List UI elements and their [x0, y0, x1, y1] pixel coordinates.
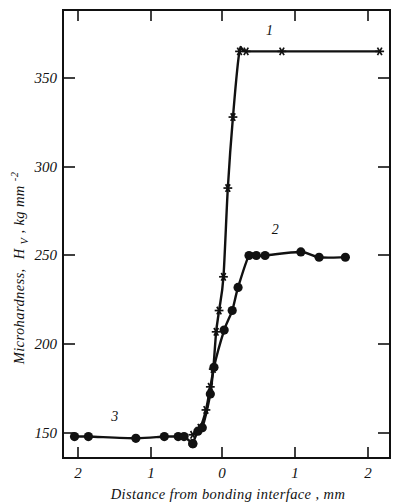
x-axis-ticks-top	[78, 10, 368, 21]
data-markers-layer	[70, 48, 384, 449]
y-axis-title-main: Microhardness,	[11, 268, 27, 365]
data-point-marker	[341, 253, 350, 262]
curve-label-3: 3	[110, 409, 118, 424]
data-point-marker	[206, 389, 215, 398]
data-point-marker	[84, 432, 93, 441]
data-point-marker	[209, 363, 218, 372]
x-axis-ticks-bottom	[78, 447, 368, 458]
y-axis-title-symbol: H	[11, 247, 27, 260]
curve-1	[193, 47, 380, 435]
data-point-marker	[314, 253, 323, 262]
x-tick-label-minus2: 2	[74, 465, 82, 481]
y-axis-ticks-right	[378, 78, 390, 433]
data-point-marker	[296, 247, 305, 256]
x-axis-title: Distance from bonding interface , mm	[110, 486, 346, 502]
figure-container: 123 150 200 250 300 350 2 1 0 1 2 Distan…	[0, 0, 403, 504]
data-series-layer	[75, 47, 380, 444]
curve-label-2: 2	[272, 222, 279, 237]
curve-annotations-layer: 123	[110, 23, 279, 423]
x-tick-label-zero: 0	[218, 465, 226, 481]
y-axis-title: Microhardness, H V , kg mm -2	[9, 171, 31, 365]
data-point-marker	[375, 48, 384, 56]
y-tick-label-150: 150	[35, 425, 58, 441]
y-axis-title-units: , kg mm	[11, 185, 27, 233]
data-point-marker	[131, 434, 140, 443]
data-point-marker	[198, 423, 207, 432]
svg-text:Microhardness, H: Microhardness, H V , kg mm -2	[9, 171, 31, 365]
y-tick-label-200: 200	[35, 336, 58, 352]
y-tick-label-300: 300	[34, 159, 58, 175]
y-axis-title-superscript: -2	[9, 171, 20, 181]
x-tick-label-minus1: 1	[147, 465, 155, 481]
x-tick-label-plus2: 2	[364, 465, 372, 481]
data-point-marker	[188, 439, 197, 448]
data-point-marker	[70, 432, 79, 441]
y-tick-label-250: 250	[35, 247, 58, 263]
y-axis-tick-labels: 150 200 250 300 350	[34, 70, 58, 441]
y-axis-title-subscript: V	[19, 236, 30, 244]
data-point-marker	[228, 306, 237, 315]
chart-canvas: 123 150 200 250 300 350 2 1 0 1 2 Distan…	[0, 0, 403, 504]
y-axis-ticks-left	[63, 78, 75, 433]
data-point-marker	[277, 48, 286, 56]
x-axis-tick-labels: 2 1 0 1 2	[74, 465, 372, 481]
x-axis-title-text: Distance from bonding interface , mm	[110, 486, 346, 502]
y-tick-label-350: 350	[34, 70, 58, 86]
data-point-marker	[220, 325, 229, 334]
data-point-marker	[233, 283, 242, 292]
data-point-marker	[179, 432, 188, 441]
x-tick-label-plus1: 1	[291, 465, 299, 481]
data-point-marker	[260, 251, 269, 260]
data-point-marker	[252, 251, 261, 260]
data-point-marker	[160, 432, 169, 441]
curve-label-1: 1	[266, 23, 273, 38]
